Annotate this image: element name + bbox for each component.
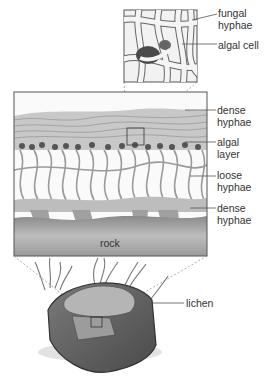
label-algal-cell: algal cell <box>218 39 259 51</box>
label-lichen: lichen <box>186 297 213 309</box>
inset-magnified-view <box>120 5 205 90</box>
label-algal-layer: algal layer <box>217 136 240 160</box>
label-dense-hyphae-bottom: dense hyphae <box>217 202 251 226</box>
boulder-with-lichen <box>38 283 162 372</box>
label-dense-hyphae-top: dense hyphae <box>217 104 251 128</box>
cross-section-view <box>14 92 207 256</box>
label-loose-hyphae: loose hyphae <box>217 169 251 193</box>
label-fungal-hyphae: fungal hyphae <box>218 7 252 31</box>
label-rock: rock <box>100 237 120 249</box>
